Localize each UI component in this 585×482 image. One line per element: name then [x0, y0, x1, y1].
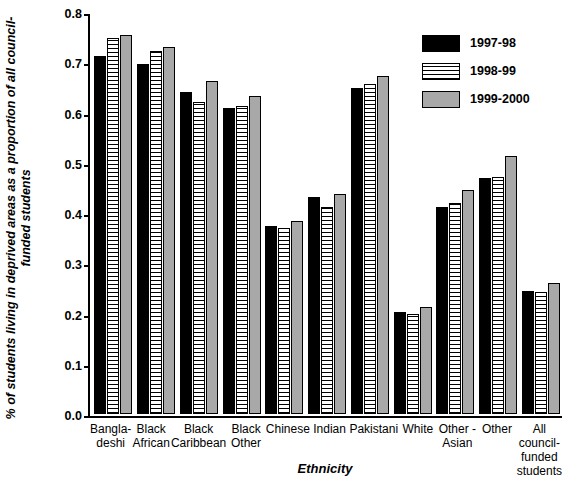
x-tick-label-line: Asian	[438, 436, 478, 450]
bar	[535, 292, 547, 414]
legend-swatch	[422, 91, 460, 108]
bar	[394, 312, 406, 414]
y-tick-label: 0.0	[48, 411, 82, 421]
bar	[407, 314, 419, 414]
bar	[420, 307, 432, 414]
x-tick-label-line: Caribbean	[171, 436, 226, 450]
bar	[449, 203, 461, 414]
y-tick-label: 0.2	[48, 311, 82, 321]
x-axis-title: Ethnicity	[88, 461, 562, 476]
bar	[206, 81, 218, 414]
legend-swatch	[422, 35, 460, 52]
bar	[223, 108, 235, 414]
y-tick-label: 0.1	[48, 361, 82, 371]
legend-item: 1998-99	[422, 60, 562, 82]
y-tick-mark	[84, 316, 90, 318]
bar-group	[92, 14, 135, 414]
bar	[193, 102, 205, 414]
x-tick-label-line: Black	[171, 422, 226, 436]
bar	[137, 64, 149, 414]
bar-group	[263, 14, 306, 414]
bar-group	[348, 14, 391, 414]
bar	[278, 228, 290, 414]
y-tick-label: 0.8	[48, 9, 82, 19]
y-tick-mark	[84, 14, 90, 16]
bar	[308, 197, 320, 414]
x-tick-label-line: Pakistani	[349, 422, 398, 436]
bar	[522, 291, 534, 414]
x-tick-label-line: Black	[226, 422, 266, 436]
y-tick-mark	[84, 416, 90, 418]
x-tick-label-line: Other	[477, 422, 517, 436]
bar	[334, 194, 346, 414]
x-tick-label-line: Bangla-	[90, 422, 131, 436]
y-tick-label: 0.5	[48, 160, 82, 170]
bar-group	[135, 14, 178, 414]
bar-chart: % of students living in deprived areas a…	[0, 0, 585, 482]
y-tick-mark	[84, 265, 90, 267]
bar-group	[306, 14, 349, 414]
y-tick-label: 0.3	[48, 260, 82, 270]
bar	[479, 178, 491, 414]
legend-label: 1997-98	[470, 36, 516, 50]
bar	[163, 47, 175, 414]
legend-label: 1998-99	[470, 64, 516, 78]
bar	[291, 221, 303, 414]
bar	[351, 88, 363, 414]
y-axis-title: % of students living in deprived areas a…	[4, 0, 30, 438]
bar	[505, 156, 517, 414]
y-tick-label: 0.4	[48, 210, 82, 220]
y-tick-mark	[84, 165, 90, 167]
y-tick-mark	[84, 215, 90, 217]
x-tick-label-line: All council-	[517, 422, 562, 450]
x-tick-label-line: Indian	[310, 422, 350, 436]
legend-item: 1997-98	[422, 32, 562, 54]
x-tick-label-line: Chinese	[266, 422, 310, 436]
legend: 1997-981998-991999-2000	[422, 32, 562, 116]
bar	[180, 92, 192, 414]
legend-swatch	[422, 63, 460, 80]
y-tick-mark	[84, 366, 90, 368]
bar	[321, 207, 333, 414]
bar	[377, 76, 389, 414]
x-tick-label-line: Other -	[438, 422, 478, 436]
bar-group	[220, 14, 263, 414]
y-tick-label: 0.6	[48, 110, 82, 120]
bar	[150, 51, 162, 414]
bar	[249, 96, 261, 414]
y-tick-mark	[84, 64, 90, 66]
bar	[120, 35, 132, 414]
bar	[236, 106, 248, 414]
y-axis-title-text: % of students living in deprived areas a…	[4, 0, 34, 438]
bar	[548, 283, 560, 414]
bar	[94, 56, 106, 414]
bar	[462, 190, 474, 414]
bar	[364, 84, 376, 414]
bar	[436, 207, 448, 414]
x-tick-label-line: deshi	[90, 436, 131, 450]
bar	[107, 38, 119, 414]
bar	[492, 177, 504, 414]
bar-group	[177, 14, 220, 414]
y-tick-mark	[84, 115, 90, 117]
bar	[265, 226, 277, 414]
y-tick-label: 0.7	[48, 59, 82, 69]
legend-label: 1999-2000	[470, 92, 530, 106]
x-tick-label-line: Other	[226, 436, 266, 450]
legend-item: 1999-2000	[422, 88, 562, 110]
x-tick-label-line: White	[398, 422, 438, 436]
x-tick-label-line: Black	[131, 422, 171, 436]
x-tick-label-line: African	[131, 436, 171, 450]
